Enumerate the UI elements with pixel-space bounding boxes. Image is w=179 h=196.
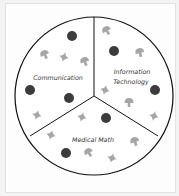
dot-icon — [67, 31, 77, 41]
section-label: Communication — [33, 74, 83, 81]
dot-icon — [61, 148, 71, 158]
dot-icon — [150, 85, 160, 95]
dot-icon — [25, 85, 35, 95]
section-wheel: Communication Information Technology Med… — [0, 0, 179, 196]
section-label: Information — [114, 68, 151, 75]
section-label: Technology — [113, 78, 149, 86]
dot-icon — [109, 46, 119, 56]
dot-icon — [101, 113, 111, 123]
dot-icon — [64, 93, 74, 103]
section-label: Medical Math — [72, 136, 114, 143]
